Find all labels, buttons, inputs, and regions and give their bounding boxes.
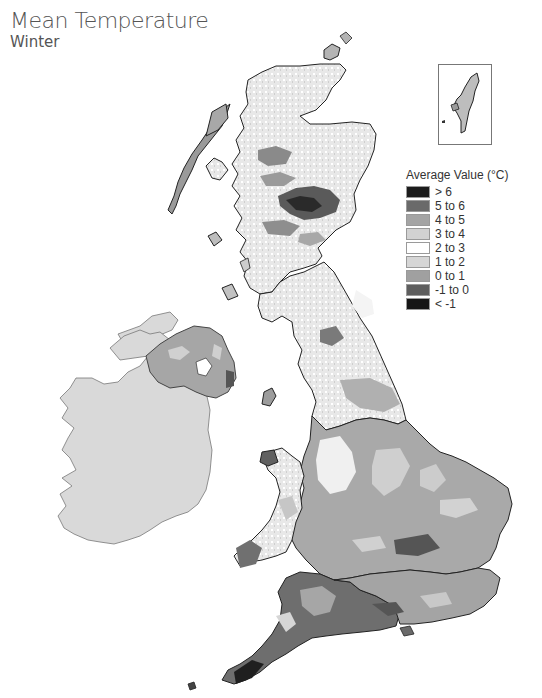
shetland-inset	[438, 64, 492, 145]
legend-swatch	[406, 270, 430, 282]
legend-item: -1 to 0	[406, 283, 508, 297]
anglesey	[260, 450, 278, 466]
legend-label: 4 to 5	[435, 213, 465, 227]
legend: Average Value (°C) > 6 5 to 6 4 to 5 3 t…	[406, 168, 508, 311]
legend-swatch	[406, 298, 430, 310]
legend-label: 0 to 1	[435, 269, 465, 283]
skye	[206, 158, 228, 180]
legend-title: Average Value (°C)	[406, 168, 508, 182]
legend-item: 1 to 2	[406, 255, 508, 269]
isle-of-wight	[400, 626, 414, 636]
legend-label: 2 to 3	[435, 241, 465, 255]
legend-swatch	[406, 186, 430, 198]
legend-swatch	[406, 228, 430, 240]
legend-swatch	[406, 256, 430, 268]
isles-of-scilly	[188, 682, 196, 690]
legend-item: 4 to 5	[406, 213, 508, 227]
legend-label: 5 to 6	[435, 199, 465, 213]
legend-item: 3 to 4	[406, 227, 508, 241]
legend-swatch	[406, 284, 430, 296]
isle-of-man	[262, 388, 276, 406]
legend-label: 3 to 4	[435, 227, 465, 241]
legend-swatch	[406, 242, 430, 254]
legend-swatch	[406, 214, 430, 226]
legend-item: 5 to 6	[406, 199, 508, 213]
legend-label: < -1	[435, 297, 456, 311]
islay	[222, 284, 238, 300]
legend-swatch	[406, 200, 430, 212]
legend-label: > 6	[435, 185, 452, 199]
shetland-map	[439, 65, 491, 144]
scotland	[232, 64, 376, 294]
legend-item: < -1	[406, 297, 508, 311]
mull	[208, 232, 222, 246]
orkney	[324, 44, 340, 60]
legend-item: > 6	[406, 185, 508, 199]
legend-item: 0 to 1	[406, 269, 508, 283]
legend-label: -1 to 0	[435, 283, 469, 297]
legend-item: 2 to 3	[406, 241, 508, 255]
legend-label: 1 to 2	[435, 255, 465, 269]
